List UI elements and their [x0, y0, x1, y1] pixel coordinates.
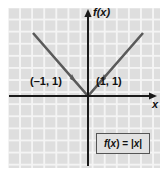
y-axis-label: f(x) — [93, 7, 110, 18]
y-axis — [84, 9, 91, 166]
equation-text: f(x) = |x| — [104, 139, 142, 149]
equation-callout-box: f(x) = |x| — [96, 133, 150, 154]
x-axis — [9, 92, 157, 99]
x-axis-label: x — [152, 99, 158, 110]
absolute-value-graph-figure: f(x) x (–1, 1) (1, 1) f(x) = |x| — [0, 0, 167, 175]
right-point-label: (1, 1) — [96, 76, 122, 87]
left-point-label: (–1, 1) — [30, 76, 62, 87]
